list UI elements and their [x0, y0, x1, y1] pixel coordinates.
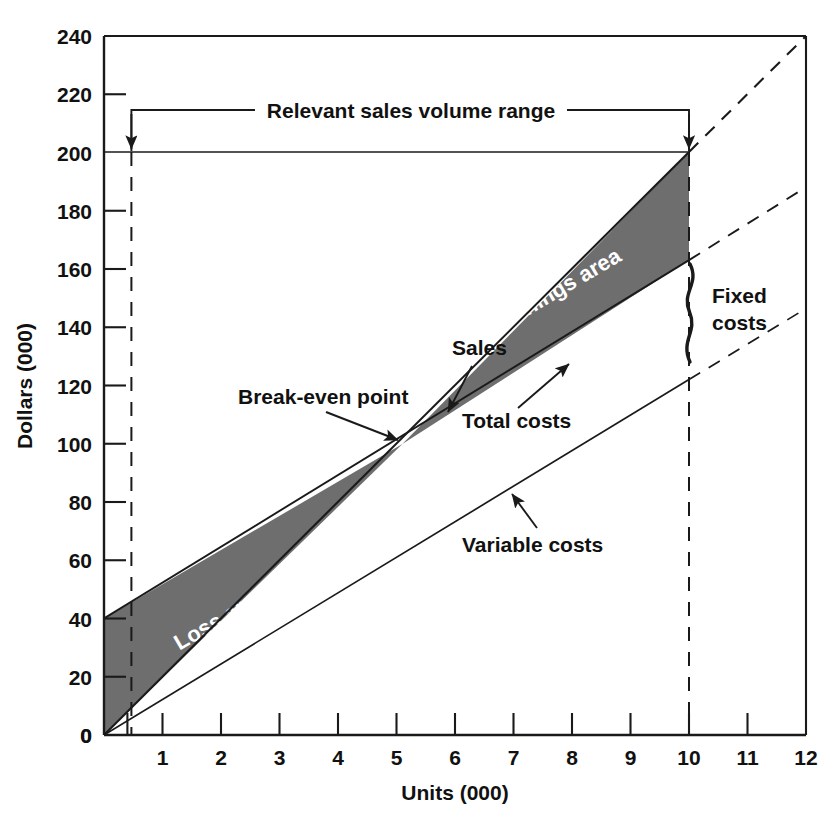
- y-tick-label: 140: [57, 316, 92, 339]
- total-costs-leader-line: [518, 364, 569, 408]
- y-tick-label: 220: [57, 83, 92, 106]
- y-tick-label: 60: [69, 549, 92, 572]
- data-lines: [104, 36, 806, 735]
- x-tick-label: 4: [332, 746, 344, 769]
- relevant-range-label: Relevant sales volume range: [267, 99, 555, 122]
- y-tick-label: 20: [69, 666, 92, 689]
- x-tick-label: 1: [157, 746, 169, 769]
- variable-costs-line-solid: [104, 380, 689, 735]
- x-tick-label: 10: [677, 746, 700, 769]
- break-even-chart: Loss area Earnings area: [0, 0, 832, 818]
- y-tick-label: 160: [57, 258, 92, 281]
- break-even-leader-line: [326, 412, 398, 440]
- x-tick-label: 12: [794, 746, 817, 769]
- fixed-costs-label-line2: costs: [712, 311, 767, 334]
- x-tick-label: 2: [215, 746, 227, 769]
- x-tick-label: 9: [625, 746, 637, 769]
- sales-line-solid: [104, 152, 689, 735]
- y-tick-label: 120: [57, 375, 92, 398]
- y-tick-label: 180: [57, 200, 92, 223]
- y-tick-label: 240: [57, 25, 92, 48]
- sales-label: Sales: [452, 336, 507, 359]
- y-tick-label: 100: [57, 433, 92, 456]
- y-tick-label: 200: [57, 142, 92, 165]
- variable-costs-label: Variable costs: [462, 533, 603, 556]
- x-tick-label: 0: [80, 724, 92, 747]
- x-tick-label: 5: [391, 746, 403, 769]
- chart-canvas: Loss area Earnings area: [0, 0, 832, 818]
- fixed-costs-label-line1: Fixed: [712, 284, 767, 307]
- x-tick-label: 3: [274, 746, 286, 769]
- variable-costs-leader-line: [512, 494, 537, 528]
- x-axis: 0123456789101112: [80, 713, 817, 769]
- total-costs-label: Total costs: [462, 409, 571, 432]
- relevant-range-bracket-left: [131, 110, 255, 151]
- break-even-point-label: Break-even point: [238, 385, 408, 408]
- y-axis-title: Dollars (000): [13, 323, 36, 449]
- total-costs-line-dashed: [689, 187, 806, 260]
- x-tick-label: 11: [736, 746, 759, 769]
- x-tick-label: 7: [508, 746, 520, 769]
- x-tick-label: 6: [449, 746, 461, 769]
- y-tick-label: 80: [69, 491, 92, 514]
- y-tick-label: 40: [69, 608, 92, 631]
- x-axis-title: Units (000): [401, 781, 508, 804]
- relevant-range-bracket: Relevant sales volume range: [131, 99, 689, 151]
- x-tick-label: 8: [566, 746, 578, 769]
- sales-line-dashed: [689, 36, 806, 152]
- relevant-range-bracket-right: [567, 110, 689, 151]
